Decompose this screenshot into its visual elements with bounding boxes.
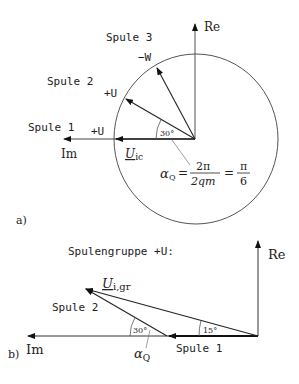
diagram-b: Spulengruppe +U: Re Im b) 15° 30° Spule … <box>8 241 286 363</box>
svg-text:2qm: 2qm <box>190 175 215 188</box>
re-axis-label: Re <box>204 20 220 34</box>
coil3-label: Spule 3 <box>106 31 152 44</box>
svg-text:π: π <box>240 160 247 173</box>
svg-text:α: α <box>160 166 169 181</box>
angle-arc-15 <box>199 321 201 337</box>
panel-label-b: b) <box>8 348 19 361</box>
im-axis-label: Im <box>61 147 78 161</box>
angle-label-15: 15° <box>203 326 217 335</box>
alpha-q-label: αQ <box>134 346 150 363</box>
coil1-label-b: Spule 1 <box>176 342 222 355</box>
formula: α Q = 2π 2qm = π 6 <box>160 160 250 188</box>
phasor-diagrams: Re Im 30° Spule 1 +U Spule 2 +U Spule 3 … <box>0 0 299 384</box>
re-axis-label-b: Re <box>268 247 286 262</box>
formula-leader <box>172 140 190 165</box>
angle-label: 30° <box>160 129 174 138</box>
vector-label-uic: Uic <box>125 147 143 162</box>
coil3-phase: −W <box>138 51 152 64</box>
angle-label-30: 30° <box>133 326 147 335</box>
coil2-phase: +U <box>104 87 117 100</box>
panel-label-a: a) <box>16 214 27 227</box>
svg-text:=: = <box>224 166 234 180</box>
resultant-vector <box>86 289 258 336</box>
coil1-label: Spule 1 <box>28 121 74 134</box>
coil2-label-b: Spule 2 <box>52 301 98 314</box>
group-title: Spulengruppe +U: <box>68 245 174 258</box>
svg-text:=: = <box>178 166 188 180</box>
svg-text:2π: 2π <box>196 160 210 173</box>
resultant-label: Ui,gr <box>102 276 131 292</box>
im-axis-label-b: Im <box>26 342 43 357</box>
coil1-phase: +U <box>91 125 104 138</box>
diagram-a: Re Im 30° Spule 1 +U Spule 2 +U Spule 3 … <box>16 20 278 227</box>
coil2-label: Spule 2 <box>47 75 93 88</box>
svg-text:6: 6 <box>240 175 247 188</box>
svg-text:Q: Q <box>169 173 176 182</box>
